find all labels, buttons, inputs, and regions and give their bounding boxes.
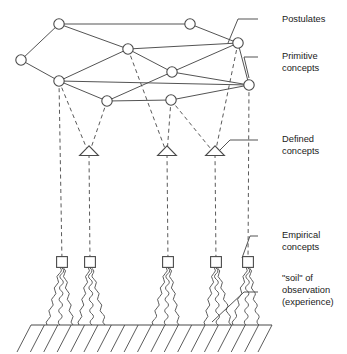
ground-hatch-line [218, 325, 232, 352]
label-defined: Definedconcepts [282, 134, 320, 156]
dashed-drop-line [215, 154, 216, 262]
dashed-drop-line [248, 85, 249, 262]
label-line: concepts [282, 146, 320, 156]
root-wavy-line [58, 268, 63, 325]
concept-node-circle[interactable] [244, 80, 254, 90]
label-line: Postulates [282, 14, 326, 24]
concept-node-circle[interactable] [233, 38, 243, 48]
network-edge [59, 49, 128, 81]
label-postulates: Postulates [282, 14, 326, 24]
root-wavy-line [152, 268, 167, 325]
network-edge [59, 81, 107, 101]
dashed-edge [128, 49, 167, 154]
label-line: Defined [282, 134, 314, 144]
label-line: Empirical [282, 230, 320, 240]
ground-hatch-line [44, 325, 58, 352]
network-edge [21, 60, 59, 81]
label-line: observation [282, 285, 330, 295]
network-edge [128, 43, 238, 49]
ground-hatch-line [204, 325, 218, 352]
leader-line-postulates [228, 19, 258, 43]
label-soil: "soil" ofobservation(experience) [282, 273, 334, 307]
network-edge [190, 24, 238, 43]
root-wavy-line [164, 268, 169, 325]
diagram-canvas: PostulatesPrimitiveconceptsDefinedconcep… [0, 0, 347, 354]
network-edge [128, 49, 172, 72]
network-edge [59, 81, 249, 85]
network-edge [171, 85, 249, 100]
concept-node-circle[interactable] [166, 95, 176, 105]
label-primitive: Primitiveconcepts [282, 51, 320, 73]
leader-line-empirical [242, 236, 258, 258]
network-edge [107, 72, 172, 101]
network-edge [172, 72, 249, 85]
empirical-node-square[interactable] [163, 257, 174, 268]
concept-node-circle[interactable] [167, 67, 177, 77]
dashed-drop-line [89, 154, 90, 262]
label-line: concepts [282, 242, 320, 252]
ground-hatch-line [17, 325, 31, 352]
network-edge [172, 43, 238, 72]
root-wavy-line [244, 268, 249, 325]
ground-hatch-line [30, 325, 44, 352]
dashed-edge [215, 43, 238, 154]
label-line: Primitive [282, 51, 318, 61]
empirical-node-square[interactable] [243, 257, 254, 268]
concept-hierarchy-diagram: PostulatesPrimitiveconceptsDefinedconcep… [0, 0, 347, 354]
ground-hatch-line [57, 325, 71, 352]
ground-hatch-line [138, 325, 152, 352]
root-wavy-line [78, 268, 90, 325]
empirical-node-square[interactable] [211, 257, 222, 268]
empirical-node-square[interactable] [85, 257, 96, 268]
ground-hatch-line [124, 325, 138, 352]
ground-hatch-line [258, 325, 272, 352]
label-line: "soil" of [282, 273, 313, 283]
empirical-node-square[interactable] [57, 257, 68, 268]
concept-node-circle[interactable] [16, 55, 26, 65]
root-wavy-line [63, 268, 73, 325]
ground-hatch-line [84, 325, 98, 352]
label-line: (experience) [282, 297, 334, 307]
ground-hatch-line [178, 325, 192, 352]
ground-hatch-line [231, 325, 245, 352]
dashed-drop-line [167, 154, 168, 262]
root-wavy-line [249, 268, 259, 325]
network-edge [107, 100, 171, 101]
root-wavy-line [88, 268, 93, 325]
ground-hatch-line [151, 325, 165, 352]
concept-node-circle[interactable] [123, 44, 133, 54]
root-wavy-line [169, 268, 179, 325]
leader-line-defined [220, 140, 258, 150]
defined-node-triangle[interactable] [206, 146, 225, 156]
concept-node-circle[interactable] [102, 96, 112, 106]
ground-hatch-line [191, 325, 205, 352]
defined-node-triangle[interactable] [80, 146, 99, 156]
defined-node-triangle[interactable] [158, 146, 177, 156]
network-edge [238, 43, 249, 85]
concept-node-circle[interactable] [185, 19, 195, 29]
ground-hatch-line [97, 325, 111, 352]
dashed-edge [171, 100, 215, 154]
label-empirical: Empiricalconcepts [282, 230, 320, 252]
concept-node-circle[interactable] [54, 76, 64, 86]
dashed-edge [89, 101, 107, 154]
root-wavy-line [46, 268, 61, 325]
ground-hatch-line [71, 325, 85, 352]
ground-hatch-line [164, 325, 178, 352]
root-wavy-line [204, 268, 216, 325]
root-wavy-line [214, 268, 219, 325]
network-edge [59, 24, 128, 49]
ground-hatch-line [245, 325, 259, 352]
concept-node-circle[interactable] [54, 19, 64, 29]
label-line: concepts [282, 63, 320, 73]
network-edge [21, 24, 59, 60]
dashed-drop-line [59, 81, 62, 262]
ground-hatch-line [111, 325, 125, 352]
